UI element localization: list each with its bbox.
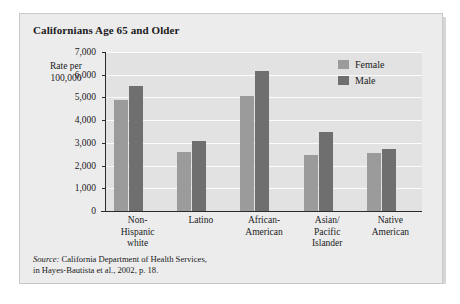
chart-title: Californians Age 65 and Older — [33, 24, 180, 36]
x-axis-tick-label-line: American — [232, 227, 296, 239]
bar-female[interactable] — [240, 96, 254, 211]
legend-swatch-female-icon — [338, 60, 349, 69]
x-axis-tick-label-line: African- — [232, 215, 296, 227]
x-axis-tick-label-line: Latino — [169, 215, 233, 227]
bar-male[interactable] — [192, 141, 206, 211]
legend-item-male[interactable]: Male — [338, 75, 384, 86]
y-axis-tick-label: 5,000 — [75, 92, 96, 102]
x-axis-tick-label-line: Islander — [295, 238, 359, 250]
source-text-1: California Department of Health Services… — [59, 254, 206, 264]
y-axis-tick-label: 6,000 — [75, 70, 96, 80]
x-axis-tick-label-line: Hispanic — [106, 227, 170, 239]
bar-female[interactable] — [114, 100, 128, 211]
y-axis-tick: 0 — [102, 211, 106, 212]
x-axis-tick-label-line: Native — [358, 215, 422, 227]
bar-female[interactable] — [177, 152, 191, 211]
bar-female[interactable] — [304, 155, 318, 211]
bar-male[interactable] — [129, 86, 143, 211]
y-axis-tick-label: 1,000 — [75, 183, 96, 193]
source-line-2: in Hayes-Bautista et al., 2002, p. 18. — [33, 265, 207, 276]
legend-item-female[interactable]: Female — [338, 59, 384, 70]
legend-label-female: Female — [355, 59, 384, 70]
y-axis-tick-label: 4,000 — [75, 115, 96, 125]
legend-label-male: Male — [355, 75, 376, 86]
x-axis-tick-label-line: Asian/ — [295, 215, 359, 227]
x-axis-tick-label: Non-Hispanicwhite — [106, 215, 170, 250]
x-axis-tick-label: African-American — [232, 215, 296, 238]
x-axis-tick-label-line: American — [358, 227, 422, 239]
plot-area: 01,0002,0003,0004,0005,0006,0007,000 Non… — [106, 52, 422, 211]
y-axis-tick-label: 0 — [91, 206, 96, 216]
figure-container: Californians Age 65 and Older Rate per 1… — [0, 0, 460, 304]
bar-group — [106, 52, 169, 211]
source-note: Source: California Department of Health … — [33, 254, 207, 276]
y-axis-tick-label: 7,000 — [75, 47, 96, 57]
card-drop-shadow — [443, 17, 446, 284]
bar-male[interactable] — [319, 132, 333, 212]
x-axis-tick-label-line: white — [106, 238, 170, 250]
x-axis-tick-label-line: Pacific — [295, 227, 359, 239]
y-axis-tick-label: 2,000 — [75, 161, 96, 171]
bar-female[interactable] — [367, 153, 381, 211]
x-axis-tick-label-line: Non- — [106, 215, 170, 227]
source-prefix: Source: — [33, 254, 59, 264]
bar-male[interactable] — [382, 149, 396, 211]
x-axis-line — [101, 211, 422, 212]
bar-male[interactable] — [255, 71, 269, 211]
x-axis-tick-label: Latino — [169, 215, 233, 227]
source-line-1: Source: California Department of Health … — [33, 254, 207, 265]
bar-group — [232, 52, 295, 211]
bar-group — [169, 52, 232, 211]
y-axis-tick-label: 3,000 — [75, 138, 96, 148]
legend-swatch-male-icon — [338, 76, 349, 85]
x-axis-tick-label: Asian/PacificIslander — [295, 215, 359, 250]
x-axis-tick-label: NativeAmerican — [358, 215, 422, 238]
chart-legend: Female Male — [338, 59, 384, 91]
